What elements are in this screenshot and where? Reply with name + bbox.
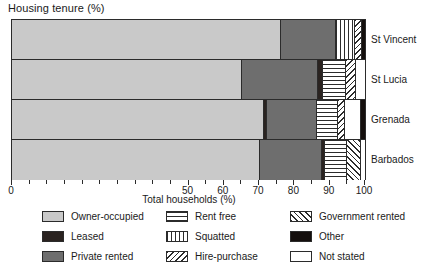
bar-segment-other — [361, 20, 365, 59]
legend-label: Hire-purchase — [195, 251, 258, 262]
bar-segment-notstated — [355, 60, 365, 99]
legend-swatch-rentfree — [166, 211, 188, 222]
chart-legend: Owner-occupiedLeasedPrivate rentedRent f… — [42, 211, 432, 269]
legend-swatch-govrented — [290, 211, 312, 222]
x-tick — [205, 180, 206, 184]
category-label-barbados: Barbados — [371, 154, 414, 165]
legend-swatch-owner — [42, 211, 64, 222]
bar-segment-notstated — [360, 140, 365, 180]
legend-item-govrented[interactable]: Government rented — [290, 211, 405, 222]
bar-segment-owner — [12, 100, 263, 139]
bar-segment-other — [360, 100, 365, 139]
x-tick — [135, 180, 136, 184]
x-tick — [346, 180, 347, 184]
legend-swatch-other — [290, 231, 312, 242]
category-labels: St VincentSt LuciaGrenadaBarbados — [371, 19, 444, 180]
bar-segment-private — [241, 60, 317, 99]
x-tick — [82, 180, 83, 184]
legend-item-private[interactable]: Private rented — [42, 251, 133, 262]
legend-label: Government rented — [319, 211, 405, 222]
legend-label: Leased — [71, 231, 104, 242]
legend-swatch-squatted — [166, 231, 188, 242]
legend-label: Rent free — [195, 211, 236, 222]
legend-item-hirepurchase[interactable]: Hire-purchase — [166, 251, 258, 262]
x-tick — [152, 180, 153, 184]
bar-segment-hirepurchase — [345, 60, 356, 99]
bar-segment-private — [259, 140, 321, 180]
bar-segment-owner — [12, 60, 241, 99]
housing-tenure-chart: Housing tenure (%) 05060708090100 Total … — [0, 0, 444, 273]
category-label-st-vincent: St Vincent — [371, 34, 416, 45]
legend-item-squatted[interactable]: Squatted — [166, 231, 235, 242]
x-tick — [64, 180, 65, 184]
x-tick — [276, 180, 277, 184]
bar-segment-notstated — [344, 100, 360, 139]
bar-segment-rentfree — [316, 100, 337, 139]
bar-segment-squatted — [335, 20, 354, 59]
bar-segment-govrented — [346, 140, 360, 180]
legend-swatch-private — [42, 251, 64, 262]
x-tick — [170, 180, 171, 184]
legend-swatch-hirepurchase — [166, 251, 188, 262]
bar-row — [12, 140, 365, 180]
x-tick — [117, 180, 118, 184]
bar-segment-owner — [12, 140, 259, 180]
bar-segment-owner — [12, 20, 280, 59]
legend-item-rentfree[interactable]: Rent free — [166, 211, 236, 222]
legend-label: Other — [319, 231, 344, 242]
legend-swatch-notstated — [290, 251, 312, 262]
legend-label: Squatted — [195, 231, 235, 242]
x-tick — [46, 180, 47, 184]
bar-segment-private — [266, 100, 315, 139]
legend-item-leased[interactable]: Leased — [42, 231, 104, 242]
bar-row — [12, 60, 365, 100]
legend-item-other[interactable]: Other — [290, 231, 344, 242]
legend-label: Private rented — [71, 251, 133, 262]
x-axis-title: Total households (%) — [11, 194, 367, 205]
plot-area — [11, 19, 366, 180]
bar-segment-rentfree — [324, 140, 345, 180]
bar-segment-hirepurchase — [337, 100, 344, 139]
legend-item-owner[interactable]: Owner-occupied — [42, 211, 144, 222]
legend-item-notstated[interactable]: Not stated — [290, 251, 365, 262]
bar-segment-private — [280, 20, 335, 59]
x-tick — [29, 180, 30, 184]
x-tick — [99, 180, 100, 184]
category-label-grenada: Grenada — [371, 114, 410, 125]
bar-segment-rentfree — [322, 60, 345, 99]
x-tick — [311, 180, 312, 184]
legend-swatch-leased — [42, 231, 64, 242]
legend-label: Not stated — [319, 251, 365, 262]
x-tick — [240, 180, 241, 184]
category-label-st-lucia: St Lucia — [371, 74, 407, 85]
chart-title: Housing tenure (%) — [8, 2, 105, 14]
legend-label: Owner-occupied — [71, 211, 144, 222]
bar-row — [12, 100, 365, 140]
bar-row — [12, 20, 365, 60]
